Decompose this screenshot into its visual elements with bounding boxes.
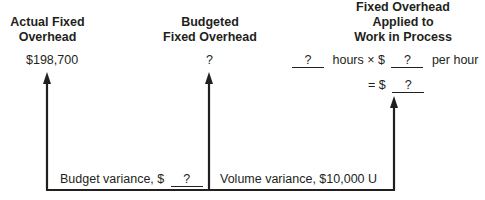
arrowhead-icon <box>390 96 398 108</box>
budget-variance-label: Budget variance, $ ? <box>60 172 203 187</box>
arrowhead-icon <box>43 72 51 84</box>
volume-variance-label: Volume variance, $10,000 U <box>220 172 377 187</box>
budget-variance-blank[interactable]: ? <box>171 173 203 187</box>
arrowhead-icon <box>205 72 213 84</box>
budget-variance-text: Budget variance, $ <box>60 172 164 186</box>
variance-arrows <box>0 0 485 200</box>
